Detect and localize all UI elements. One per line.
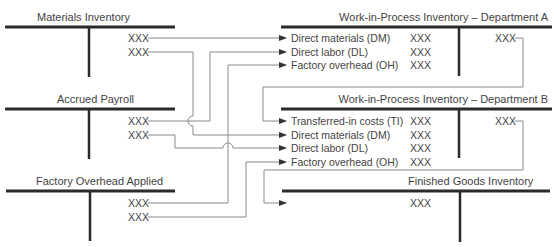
wip-b-dl-label: Direct labor (DL)	[291, 142, 368, 154]
wip-b-oh-value: XXX	[410, 156, 431, 168]
mi-credit-1: XXX	[128, 32, 149, 44]
finished-goods-title: Finished Goods Inventory	[408, 175, 533, 187]
wip-b-dl-value: XXX	[410, 142, 431, 154]
wip-b-dm-value: XXX	[410, 129, 431, 141]
wip-a-credit: XXX	[495, 32, 516, 44]
wip-b-ti-label: Transferred-in costs (TI)	[291, 115, 403, 127]
wip-a-dm-value: XXX	[410, 32, 431, 44]
wip-a-dl-value: XXX	[410, 46, 431, 58]
wip-a-dm-label: Direct materials (DM)	[291, 32, 390, 44]
mi-credit-2: XXX	[128, 46, 149, 58]
accrued-payroll-title: Accrued Payroll	[57, 93, 134, 105]
ap-credit-1: XXX	[128, 115, 149, 127]
factory-overhead-applied-title: Factory Overhead Applied	[36, 175, 163, 187]
diagram-canvas	[0, 0, 554, 247]
wip-a-title: Work-in-Process Inventory – Department A	[339, 11, 548, 23]
finished-goods-debit: XXX	[410, 197, 431, 209]
wip-a-oh-label: Factory overhead (OH)	[291, 59, 398, 71]
wip-a-dl-label: Direct labor (DL)	[291, 46, 368, 58]
ap-credit-2: XXX	[128, 129, 149, 141]
wip-b-ti-value: XXX	[410, 115, 431, 127]
wip-b-dm-label: Direct materials (DM)	[291, 129, 390, 141]
foa-credit-1: XXX	[128, 197, 149, 209]
wip-a-oh-value: XXX	[410, 59, 431, 71]
materials-inventory-title: Materials Inventory	[37, 11, 130, 23]
wip-b-oh-label: Factory overhead (OH)	[291, 156, 398, 168]
wip-b-credit: XXX	[495, 115, 516, 127]
foa-credit-2: XXX	[128, 211, 149, 223]
wip-b-title: Work-in-Process Inventory – Department B	[339, 93, 548, 105]
